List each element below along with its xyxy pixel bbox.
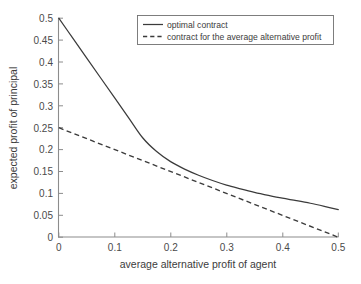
legend: optimal contract contract for the averag… [138, 16, 334, 45]
y-tick-label: 0.05 [34, 210, 54, 221]
y-axis-title: expected profit of principal [7, 67, 19, 190]
x-tick-label: 0 [56, 242, 62, 253]
x-tick-label: 0.1 [108, 242, 122, 253]
y-tick-label: 0.4 [39, 57, 53, 68]
y-tick-label: 0.3 [39, 101, 53, 112]
x-axis-title: average alternative profit of agent [120, 258, 277, 270]
x-tick-label: 0.5 [331, 242, 345, 253]
legend-label-contract-average: contract for the average alternative pro… [167, 32, 322, 42]
y-tick-label: 0.25 [34, 123, 54, 134]
y-tick-label: 0.45 [34, 35, 54, 46]
y-tick-label: 0.1 [39, 188, 53, 199]
y-tick-label: 0.35 [34, 79, 54, 90]
y-tick-label: 0.2 [39, 144, 53, 155]
x-tick-label: 0.3 [220, 242, 234, 253]
x-tick-label: 0.2 [164, 242, 178, 253]
legend-label-optimal-contract: optimal contract [167, 20, 228, 30]
y-tick-label: 0.5 [39, 13, 53, 24]
x-tick-label: 0.4 [276, 242, 290, 253]
chart-figure: 0 0.05 0.1 0.15 0.2 0.25 0.3 0.35 0.4 0.… [0, 0, 361, 284]
y-tick-label: 0.15 [34, 166, 54, 177]
line-chart: 0 0.05 0.1 0.15 0.2 0.25 0.3 0.35 0.4 0.… [0, 0, 361, 284]
y-tick-label: 0 [47, 232, 53, 243]
